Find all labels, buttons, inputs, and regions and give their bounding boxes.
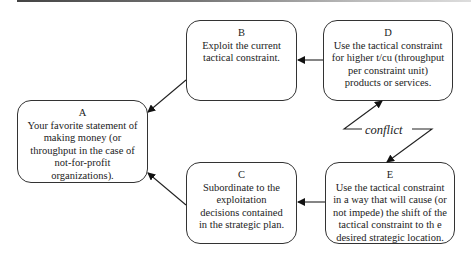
conflict-label: conflict (365, 123, 403, 138)
arrow-b-to-a (148, 80, 186, 112)
arrow-c-to-a (148, 173, 186, 205)
